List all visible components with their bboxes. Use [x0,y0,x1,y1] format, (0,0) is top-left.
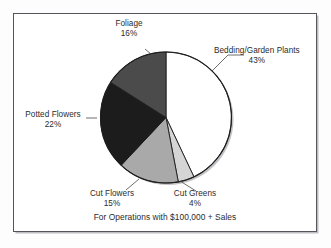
slice-label-name: Cut Greens [174,189,216,198]
slice-label-name: Potted Flowers [25,110,80,119]
slice-label-percent: 15% [80,199,144,209]
chart-stage: Bedding/Garden Plants 43% Foliage 16% Po… [0,0,331,248]
slice-label-percent: 4% [164,199,226,209]
slice-label-percent: 43% [214,56,300,66]
slice-label-cut-flowers: Cut Flowers 15% [80,189,144,210]
slice-label-name: Cut Flowers [90,189,134,198]
slice-label-bedding-garden-plants: Bedding/Garden Plants 43% [214,46,300,67]
pie-slices-group [100,52,231,183]
slice-label-foliage: Foliage 16% [98,19,160,40]
pie-chart-figure: Bedding/Garden Plants 43% Foliage 16% Po… [0,0,331,248]
slice-label-cut-greens: Cut Greens 4% [164,189,226,210]
slice-label-potted-flowers: Potted Flowers 22% [14,110,92,131]
slice-label-name: Bedding/Garden Plants [214,46,300,55]
slice-label-percent: 16% [98,29,160,39]
slice-label-percent: 22% [14,120,92,130]
chart-caption: For Operations with $100,000 + Sales [13,212,317,222]
slice-label-name: Foliage [115,19,142,28]
